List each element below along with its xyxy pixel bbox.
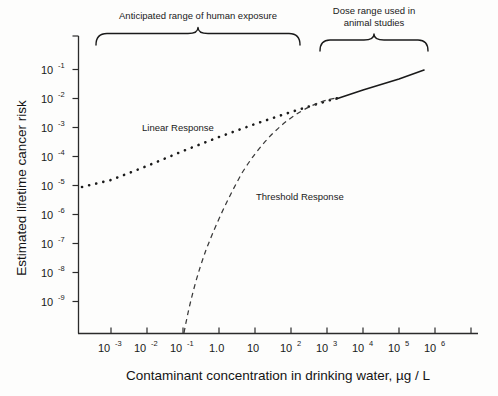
y-axis-title: Estimated lifetime cancer risk: [14, 100, 29, 276]
threshold-response-label: Threshold Response: [256, 191, 344, 202]
x-axis-title: Contaminant concentration in drinking wa…: [126, 368, 431, 383]
axes-lines: [78, 36, 478, 334]
animal-dose-brace-label-line1: Dose range used in: [333, 5, 415, 16]
x-tick-label-8: 10 5: [388, 339, 409, 354]
svg-text:6: 6: [441, 339, 445, 348]
linear-response-dotted-curve: [82, 98, 338, 187]
svg-text:-6: -6: [58, 206, 65, 215]
svg-text:10: 10: [98, 342, 110, 354]
svg-text:-3: -3: [115, 339, 122, 348]
y-tick-label-0: 10 -1: [41, 61, 65, 76]
svg-text:10: 10: [280, 342, 292, 354]
y-tick-label-7: 10 -8: [41, 264, 65, 279]
y-tick-label-8: 10 -9: [41, 293, 65, 308]
animal-dose-brace: Dose range used in animal studies: [320, 5, 428, 51]
svg-text:-2: -2: [151, 339, 158, 348]
x-tick-label-4: 10: [247, 342, 259, 354]
svg-text:2: 2: [297, 339, 301, 348]
x-tick-label-5: 10 2: [280, 339, 301, 354]
svg-text:-5: -5: [58, 177, 65, 186]
svg-text:10: 10: [41, 209, 53, 221]
svg-text:5: 5: [405, 339, 409, 348]
anticipated-range-brace: Anticipated range of human exposure: [96, 10, 300, 45]
linear-response-solid-curve: [336, 70, 424, 99]
svg-text:10: 10: [41, 64, 53, 76]
svg-text:10: 10: [170, 342, 182, 354]
svg-text:10: 10: [41, 238, 53, 250]
y-tick-label-6: 10 -7: [41, 235, 65, 250]
x-tick-label-2: 10 -1: [170, 339, 194, 354]
threshold-response-dashed-curve: [184, 98, 337, 333]
svg-text:10: 10: [247, 342, 259, 354]
linear-response-label: Linear Response: [142, 122, 214, 133]
svg-text:-7: -7: [58, 235, 65, 244]
x-axis-ticks: [111, 328, 471, 334]
svg-text:-3: -3: [58, 119, 65, 128]
svg-text:4: 4: [369, 339, 373, 348]
svg-text:10: 10: [41, 151, 53, 163]
chart-figure: 10 -1 10 -2 10 -3 10 -4 10 -5 10 -6: [0, 0, 498, 396]
svg-text:10: 10: [134, 342, 146, 354]
svg-text:10: 10: [41, 296, 53, 308]
animal-dose-brace-path: [320, 34, 428, 51]
svg-text:-9: -9: [58, 293, 65, 302]
svg-text:10: 10: [41, 180, 53, 192]
x-tick-label-7: 10 4: [352, 339, 373, 354]
cancer-risk-dose-response-chart: 10 -1 10 -2 10 -3 10 -4 10 -5 10 -6: [0, 0, 498, 396]
x-tick-label-9: 10 6: [424, 339, 445, 354]
svg-text:10: 10: [352, 342, 364, 354]
svg-text:-1: -1: [58, 61, 65, 70]
x-tick-label-0: 10 -3: [98, 339, 122, 354]
x-tick-label-6: 10 3: [316, 339, 337, 354]
svg-text:10: 10: [41, 122, 53, 134]
y-axis-tick-labels: 10 -1 10 -2 10 -3 10 -4 10 -5 10 -6: [41, 61, 65, 308]
svg-text:-4: -4: [58, 148, 65, 157]
y-tick-label-4: 10 -5: [41, 177, 65, 192]
x-tick-label-1: 10 -2: [134, 339, 158, 354]
y-tick-label-1: 10 -2: [41, 90, 65, 105]
data-curves: [82, 70, 424, 333]
y-axis-ticks: [73, 36, 79, 302]
svg-text:10: 10: [424, 342, 436, 354]
svg-text:-1: -1: [187, 339, 194, 348]
y-tick-label-5: 10 -6: [41, 206, 65, 221]
svg-text:3: 3: [333, 339, 337, 348]
anticipated-range-brace-label: Anticipated range of human exposure: [119, 10, 277, 21]
svg-text:10: 10: [41, 93, 53, 105]
svg-text:10: 10: [316, 342, 328, 354]
svg-text:1.0: 1.0: [209, 342, 224, 354]
svg-text:10: 10: [388, 342, 400, 354]
anticipated-range-brace-path: [96, 28, 300, 46]
y-tick-label-3: 10 -4: [41, 148, 65, 163]
animal-dose-brace-label-line2: animal studies: [344, 17, 405, 28]
x-axis-tick-labels: 10 -3 10 -2 10 -1 1.0 10 10 2: [98, 339, 445, 354]
y-tick-label-2: 10 -3: [41, 119, 65, 134]
x-tick-label-3: 1.0: [209, 342, 224, 354]
svg-text:-2: -2: [58, 90, 65, 99]
svg-text:10: 10: [41, 267, 53, 279]
svg-text:-8: -8: [58, 264, 65, 273]
